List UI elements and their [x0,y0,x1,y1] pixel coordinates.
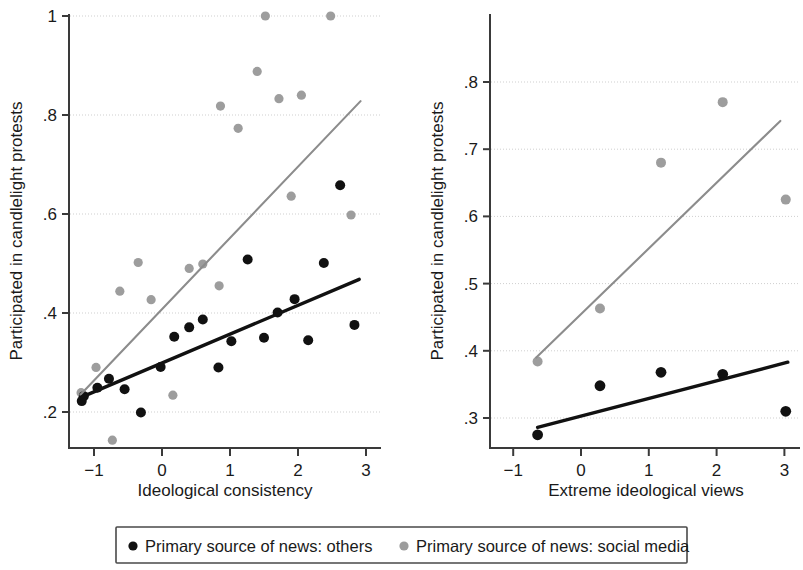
left-data-point-social-media [91,363,100,372]
left-data-point-others [213,362,223,372]
right-x-axis-title: Extreme ideological views [548,481,744,500]
right-data-point-social-media [781,195,791,205]
left-data-point-social-media [147,295,156,304]
left-data-point-others [169,332,179,342]
left-data-point-others [349,320,359,330]
left-data-point-social-media [234,124,243,133]
legend-marker-social-media-icon [399,541,408,550]
left-y-tick-label: 1 [48,7,57,26]
left-data-point-social-media [115,287,124,296]
right-data-point-social-media [718,97,728,107]
left-data-point-others [184,322,194,332]
legend: Primary source of news: others Primary s… [116,527,690,563]
left-x-tick-label: 1 [225,461,234,480]
left-data-point-others [136,407,146,417]
right-x-tick-label: 3 [780,461,789,480]
left-y-tick-label: .8 [43,106,57,125]
right-x-tick-label: 2 [712,461,721,480]
right-data-point-others [532,429,543,440]
left-data-point-social-media [108,436,117,445]
right-y-tick-label: .8 [464,73,478,92]
right-data-point-social-media [533,357,543,367]
left-data-point-others [290,294,300,304]
right-y-tick-label: .3 [464,409,478,428]
left-data-point-others [243,255,253,265]
left-data-point-social-media [297,91,306,100]
left-y-tick-label: .6 [43,205,57,224]
legend-label-others: Primary source of news: others [145,537,372,555]
left-x-tick-label: −1 [84,461,103,480]
left-data-point-social-media [274,94,283,103]
left-data-point-social-media [134,258,143,267]
left-x-tick-label: 2 [293,461,302,480]
left-data-point-others [226,336,236,346]
right-x-tick-label: 1 [644,461,653,480]
left-data-point-social-media [326,11,335,20]
left-data-point-social-media [216,101,225,110]
left-y-axis-title: Participated in candlelight protests [7,102,26,361]
left-data-point-others [259,333,269,343]
figure-panel-container: .2.4.6.81 −10123 Ideological consistency… [0,0,803,570]
left-data-point-others [120,384,130,394]
right-y-tick-label: .6 [464,207,478,226]
right-y-tick-label: .4 [464,342,478,361]
right-data-point-others [656,367,667,378]
right-x-tick-label: 0 [576,461,585,480]
right-data-point-others [595,380,606,391]
left-data-point-social-media [253,67,262,76]
legend-label-social-media: Primary source of news: social media [416,537,690,555]
legend-marker-others-icon [128,541,137,550]
left-data-point-social-media [215,281,224,290]
left-x-axis-title: Ideological consistency [138,481,313,500]
right-y-tick-label: .5 [464,275,478,294]
left-y-tick-label: .2 [43,403,57,422]
two-panel-scatter-chart: .2.4.6.81 −10123 Ideological consistency… [0,0,803,570]
right-data-point-social-media [656,158,666,168]
left-x-tick-label: 0 [157,461,166,480]
left-data-point-social-media [287,192,296,201]
left-data-point-social-media [346,210,355,219]
left-data-point-social-media [168,391,177,400]
left-data-point-others [198,314,208,324]
right-y-tick-label: .7 [464,140,478,159]
right-data-point-social-media [595,303,605,313]
right-y-axis-title: Participated in candlelight protests [428,102,447,361]
left-y-tick-label: .4 [43,304,57,323]
left-data-point-social-media [261,11,270,20]
left-x-tick-label: 3 [361,461,370,480]
right-x-tick-label: −1 [504,461,523,480]
left-data-point-social-media [185,264,194,273]
left-data-point-others [335,180,345,190]
left-data-point-others [303,335,313,345]
right-data-point-others [780,406,791,417]
left-data-point-others [319,258,329,268]
